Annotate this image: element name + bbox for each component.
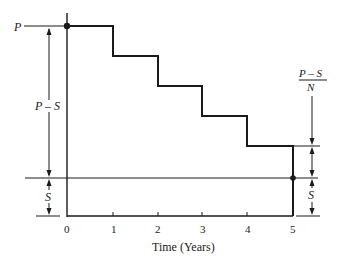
initial-value-dot — [64, 23, 70, 29]
x-tick-label-0: 0 — [64, 223, 70, 235]
label-p-minus-s: P – S — [34, 99, 60, 113]
x-tick-label-3: 3 — [200, 223, 206, 235]
label-s-left: S — [45, 190, 51, 204]
x-tick-label-4: 4 — [245, 223, 251, 235]
x-tick-label-2: 2 — [155, 223, 161, 235]
arrow-down-icon — [47, 208, 52, 215]
arrow-down-icon — [310, 138, 315, 145]
arrow-up-icon — [310, 179, 315, 186]
x-tick-label-5: 5 — [290, 223, 296, 235]
arrow-up-icon — [47, 179, 52, 186]
depreciation-diagram: P P – S S S P – S N 0 1 2 3 4 5 Time (Ye… — [0, 0, 338, 257]
arrow-down-icon — [310, 208, 315, 215]
label-p: P — [13, 20, 22, 34]
salvage-value-dot — [290, 175, 296, 181]
arrow-down-icon — [310, 170, 315, 177]
x-axis-title: Time (Years) — [152, 240, 215, 254]
fraction-numerator: P – S — [298, 67, 323, 79]
label-s-right: S — [308, 188, 314, 202]
fraction-denominator: N — [306, 81, 315, 93]
arrow-up-icon — [47, 28, 52, 35]
arrow-down-icon — [47, 170, 52, 177]
book-value-staircase — [67, 26, 293, 216]
x-tick-label-1: 1 — [111, 223, 117, 235]
arrow-up-icon — [310, 147, 315, 154]
